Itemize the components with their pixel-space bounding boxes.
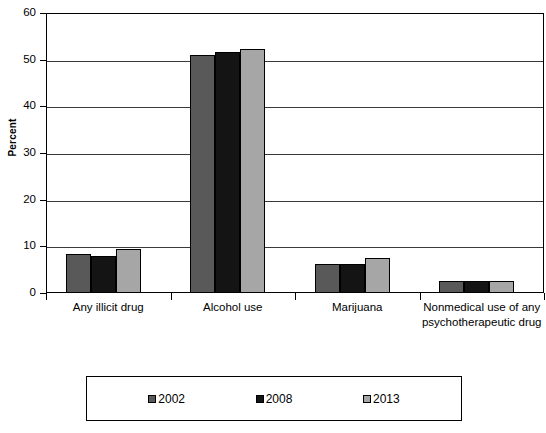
legend-label: 2008 (266, 393, 293, 405)
x-axis-category-label: Alcohol use (171, 300, 296, 315)
x-axis-category-labels: Any illicit drugAlcohol useMarijuanaNonm… (46, 300, 544, 368)
bar (240, 49, 265, 293)
bar (489, 281, 514, 293)
legend-swatch-icon (256, 395, 264, 403)
bar-chart: Percent 0102030405060 Any illicit drugAl… (0, 0, 546, 433)
bar-group (295, 13, 420, 293)
legend-item[interactable]: 2008 (256, 393, 293, 405)
bar (116, 249, 141, 293)
y-tick-label-60: 60 (0, 7, 36, 18)
y-tick-label-0: 0 (0, 287, 36, 298)
y-tick-label-40: 40 (0, 100, 36, 111)
bar (340, 264, 365, 293)
bar-group (46, 13, 171, 293)
legend-swatch-icon (148, 395, 156, 403)
bar (439, 281, 464, 293)
bar (190, 55, 215, 293)
y-tick-label-10: 10 (0, 240, 36, 251)
legend: 200220082013 (86, 376, 462, 421)
bar (315, 264, 340, 293)
y-tick-label-50: 50 (0, 54, 36, 65)
legend-label: 2002 (158, 393, 185, 405)
x-tick-mark (295, 293, 296, 300)
bar (365, 258, 390, 293)
legend-swatch-icon (363, 395, 371, 403)
x-axis-category-label: Marijuana (295, 300, 420, 315)
x-axis-category-label: Any illicit drug (46, 300, 171, 315)
bar (464, 281, 489, 293)
y-tick-label-30: 30 (0, 147, 36, 158)
legend-item[interactable]: 2013 (363, 393, 400, 405)
bar-group (420, 13, 545, 293)
bar (66, 254, 91, 293)
legend-items: 200220082013 (87, 377, 461, 420)
bar (215, 52, 240, 293)
x-tick-mark (420, 293, 421, 300)
legend-item[interactable]: 2002 (148, 393, 185, 405)
bar-group (171, 13, 296, 293)
bar-groups (46, 13, 544, 293)
y-tick-label-20: 20 (0, 194, 36, 205)
x-axis-category-label: Nonmedical use of any psychotherapeutic … (420, 300, 545, 329)
x-tick-mark (46, 293, 47, 300)
bar (91, 256, 116, 293)
legend-label: 2013 (373, 393, 400, 405)
x-tick-mark (544, 293, 545, 300)
x-tick-mark (171, 293, 172, 300)
